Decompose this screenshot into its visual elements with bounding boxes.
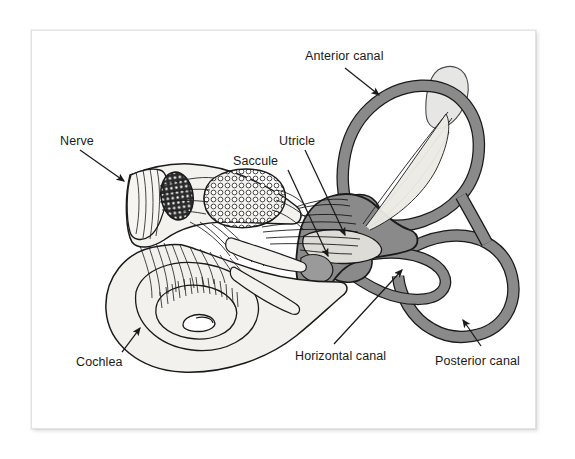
label-anterior-canal: Anterior canal [305,50,384,63]
spiral-ganglion-cluster [204,169,285,228]
label-cochlea: Cochlea [76,356,123,369]
inner-ear-diagram [0,0,575,459]
label-saccule: Saccule [233,155,278,168]
label-horizontal-canal: Horizontal canal [295,350,386,363]
label-nerve: Nerve [60,135,94,148]
figure-page: Anterior canal Nerve Utricle Saccule Coc… [0,0,575,459]
label-posterior-canal: Posterior canal [435,355,520,368]
label-utricle: Utricle [279,135,315,148]
leader-nerve [80,150,124,181]
leader-anterior-canal [345,68,379,95]
